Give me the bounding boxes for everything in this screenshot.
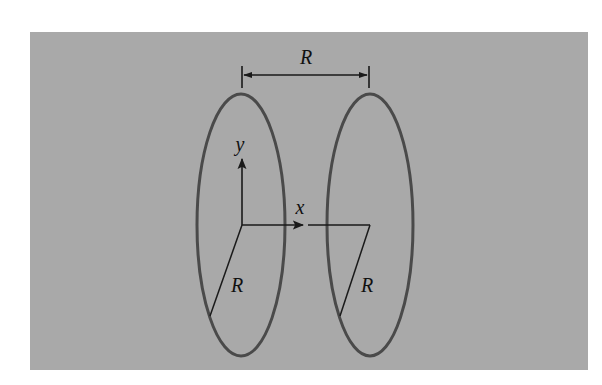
x-axis: x <box>242 196 370 225</box>
helmholtz-coil-diagram: R y x R R <box>0 0 602 385</box>
y-axis-label: y <box>234 133 245 156</box>
x-axis-label: x <box>295 196 305 218</box>
y-axis: y <box>234 133 245 225</box>
right-radius-label: R <box>360 274 373 296</box>
separation-dimension: R <box>242 46 369 88</box>
separation-label: R <box>299 46 312 68</box>
right-radius-line <box>340 225 370 316</box>
left-radius-label: R <box>230 274 243 296</box>
right-radius: R <box>340 225 373 316</box>
left-radius: R <box>210 225 243 316</box>
left-radius-line <box>210 225 242 316</box>
